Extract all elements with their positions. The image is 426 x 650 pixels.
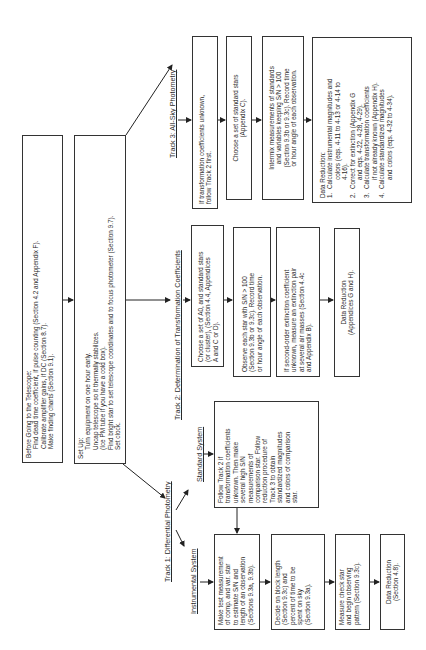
step-line: and begin observing: [345, 539, 352, 625]
step-line: and Appendix B).: [305, 232, 312, 372]
before-title: Before Going to the Telescope:: [25, 140, 32, 458]
step-line: (Appendix C).: [239, 41, 246, 195]
setup-line: (Ice PM tube if you have a cold box).: [99, 140, 106, 459]
item-number: 3.: [363, 193, 370, 198]
step-line: (Section 9.3b or 9.3c). Record time: [248, 232, 255, 372]
step-line: Measure check star: [338, 539, 345, 625]
std-line: standardized magnitudes: [276, 406, 283, 503]
track3-step-2: Choose a set of standard stars (Appendix…: [226, 36, 252, 200]
step-line: or hour angle of each observation.: [290, 41, 297, 195]
item-line: Calculate standardized magnitudes: [378, 89, 385, 189]
setup-line: Turn equipment on one hour early.: [84, 140, 91, 459]
track1-step-4: Data Reduction (Section 4.8).: [380, 534, 405, 630]
step-line: follow Track 2 first.: [205, 41, 212, 204]
step-line: Choose a set of standard stars: [232, 41, 239, 195]
track3-step-3: Intermix measurements of standards and v…: [262, 36, 304, 200]
item-number: 2.: [349, 193, 356, 198]
track2-label: Track 2: Determination of Transformation…: [173, 250, 182, 420]
step-line: (Section 9.3c) and: [281, 539, 288, 625]
before-line: Find dead time coefficient, if pulse cou…: [32, 140, 39, 458]
step-line: Data Reduction: [385, 539, 392, 625]
std-line: transformation coefficients: [224, 406, 231, 503]
before-line: Make finding charts (Section 9.1).: [47, 140, 54, 458]
item-line: if not already known (Appendix H).: [371, 42, 378, 198]
setup-line: Find bright star to set telescope coordi…: [107, 140, 114, 459]
item-line: 4-16).: [341, 42, 348, 198]
step-line: (Sections 9.3a, 9.3b).: [247, 539, 254, 625]
track2-step-1: Choose a set of A0, and standard stars (…: [191, 225, 224, 367]
step-line: If second-order extinction coefficient: [283, 232, 290, 372]
track1-standard-box: Follow Track 2 if transformation coeffic…: [214, 401, 319, 508]
step-line: unknown, measure an extinction pair: [290, 232, 297, 372]
item-line: colors (eqs. 4-11 to 4-13 or 4-14 to: [334, 42, 341, 198]
item-number: 1.: [326, 193, 333, 198]
step-line: Choose a set of A0, and standard stars: [197, 230, 204, 362]
step-line: of comp. and var. star: [224, 539, 231, 625]
before-line: Calibrate amplifier gains, if DC (Sectio…: [40, 140, 47, 458]
item-line: and colors (eqs. 4-32 to 4-34).: [386, 42, 393, 198]
step-line: Data Reduction: [340, 233, 347, 372]
item-line: Correct for extinction (Appendix G: [349, 93, 356, 189]
std-line: several high S/N: [239, 406, 246, 503]
step-line: Make test measurement: [217, 539, 224, 625]
step-line: length of an observation: [239, 539, 246, 625]
setup-title: Set Up:: [77, 140, 84, 459]
track1-label: Track 1: Differential Photometry: [163, 481, 172, 582]
setup-line: Uncap telescope so it thermally stabiliz…: [92, 140, 99, 459]
step-line: or hour angle of each observation.: [256, 232, 263, 372]
std-line: comparison star. Follow: [254, 406, 261, 503]
std-line: Track 3 to obtain: [269, 406, 276, 503]
track3-step-1: If transformation coefficients unknown, …: [192, 36, 218, 209]
step-line: (Section 9.3a).: [304, 539, 311, 625]
step-line: spent on sky: [296, 539, 303, 625]
std-line: Follow Track 2 if: [217, 406, 224, 503]
step-line: Intermix measurements of standards: [268, 41, 275, 195]
before-telescope-box: Before Going to the Telescope: Find dead…: [22, 135, 63, 463]
track3-label: Track 3: All-Sky Photometry: [168, 70, 177, 158]
std-line: and colors of comparison: [284, 406, 291, 503]
standard-system-label: Standard System: [195, 427, 204, 482]
item-number: 4.: [378, 193, 385, 198]
instrumental-system-label: Instrumental System: [189, 548, 198, 614]
photometry-flowchart: Before Going to the Telescope: Find dead…: [0, 0, 426, 650]
step-line: Observe each star with S/N > 100: [241, 232, 248, 372]
item-line: and eqs. 4-22, 4-28, 4-29).: [356, 42, 363, 198]
step-line: (Section 4.8).: [392, 539, 399, 625]
track1-step-3: Measure check star and begin observing p…: [335, 534, 370, 630]
std-line: reduction procedure of: [261, 406, 268, 503]
step-line: If transformation coefficients unknown,: [198, 41, 205, 204]
step-line: at several air masses (Section 4.4c: [298, 232, 305, 372]
setup-line: Set clock.: [114, 140, 121, 459]
item-line: Calculate instrumental magnitudes and: [326, 79, 333, 189]
std-line: measurements of: [247, 406, 254, 503]
step-line: (Appendices G and H).: [347, 233, 354, 372]
step-line: to estimate S/N and: [232, 539, 239, 625]
track2-step-2: Observe each star with S/N > 100 (Sectio…: [233, 227, 271, 377]
reduction-title: Data Reduction:: [319, 42, 326, 198]
std-line: star.: [291, 406, 298, 503]
setup-box: Set Up: Turn equipment on one hour early…: [74, 135, 126, 464]
step-line: pattern (Section 9.3c).: [353, 539, 360, 625]
step-line: and variables keeping S/N > 100: [275, 41, 282, 195]
step-line: (or cluster), (Section 4.4, Appendices: [204, 230, 211, 362]
track2-step-3: If second-order extinction coefficient u…: [276, 227, 320, 377]
step-line: (Section 9.3b or 9.3c). Record time: [283, 41, 290, 195]
std-line: unknown. Then make: [232, 406, 239, 503]
step-line: Decide on block length: [274, 539, 281, 625]
track2-step-4: Data Reduction (Appendices G and H).: [334, 228, 360, 377]
item-line: Calculate transformation coefficients: [363, 86, 370, 189]
track1-step-1: Make test measurement of comp. and var. …: [214, 534, 260, 630]
track3-data-reduction-box: Data Reduction: 1. Calculate instrumenta…: [312, 37, 412, 203]
step-line: percent of time to be: [289, 539, 296, 625]
step-line: A and C or D).: [212, 230, 219, 362]
track1-step-2: Decide on block length (Section 9.3c) an…: [271, 534, 325, 630]
